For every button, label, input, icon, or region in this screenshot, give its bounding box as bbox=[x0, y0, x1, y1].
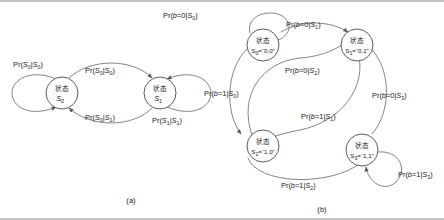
edge-b-s3-to-s1 bbox=[368, 46, 387, 134]
node-a-s0-cn-label: 状态 bbox=[55, 84, 69, 92]
node-b-s0-cn-label: 状态 bbox=[256, 36, 270, 44]
node-b-s0: 状态 S0=“0,0” bbox=[247, 29, 279, 61]
node-a-s0: 状态 S0 bbox=[46, 77, 78, 109]
state-transition-diagram: 状态 S0 状态 S1 Pr(S0|S0) Pr(S0|S0) Pr(S0|S1… bbox=[0, 0, 444, 220]
node-b-s1-circle bbox=[341, 29, 373, 61]
node-b-s0-circle bbox=[247, 29, 279, 61]
label-b-pr-b0-given-s3: Pr(b=0|S3) bbox=[372, 91, 407, 101]
label-a-pr-s0-given-s0: Pr(S0|S0) bbox=[13, 60, 43, 70]
node-b-s2-circle bbox=[247, 130, 279, 162]
node-b-s1-cn-label: 状态 bbox=[350, 36, 364, 44]
label-b-pr-b1-given-s1: Pr(b=1|S1) bbox=[301, 112, 336, 122]
label-a-pr-s1-given-s0: Pr(S0|S0) bbox=[85, 66, 115, 76]
label-b-pr-b0-given-s2: Pr(b=0|S2) bbox=[285, 66, 320, 76]
node-b-s3-circle bbox=[346, 134, 378, 166]
node-b-s2: 状态 S2=“1,0” bbox=[247, 130, 279, 162]
node-b-s3-cn-label: 状态 bbox=[355, 141, 369, 149]
node-b-s2-cn-label: 状态 bbox=[256, 137, 270, 145]
caption-panel-a: (a) bbox=[126, 196, 136, 205]
label-a-pr-s0-given-s1: Pr(S0|S1) bbox=[85, 113, 115, 123]
label-a-pr-s1-given-s1: Pr(S1|S1) bbox=[152, 116, 182, 126]
label-b-pr-b1-given-s3: Pr(b=1|S3) bbox=[398, 170, 433, 180]
node-a-s1: 状态 S1 bbox=[144, 77, 176, 109]
panel-b: 状态 S0=“0,0” 状态 S1=“0,1” 状态 S2=“1,0” 状态 S… bbox=[163, 11, 433, 214]
panel-a: 状态 S0 状态 S1 Pr(S0|S0) Pr(S0|S0) Pr(S0|S1… bbox=[12, 60, 211, 205]
node-b-s3: 状态 S3=“1,1” bbox=[346, 134, 378, 166]
caption-panel-b: (b) bbox=[317, 205, 327, 214]
label-b-pr-b0-given-s0: Pr(b=0|S0) bbox=[163, 11, 198, 21]
label-b-pr-b1-given-s2: Pr(b=1|S2) bbox=[281, 181, 316, 191]
node-b-s1: 状态 S1=“0,1” bbox=[341, 29, 373, 61]
label-b-pr-b1-given-s0: Pr(b=1|S0) bbox=[204, 89, 239, 99]
label-b-pr-b0-given-s1: Pr(b=0|S1) bbox=[286, 20, 321, 30]
figure-root: 状态 S0 状态 S1 Pr(S0|S0) Pr(S0|S0) Pr(S0|S1… bbox=[0, 0, 444, 220]
node-a-s1-cn-label: 状态 bbox=[153, 84, 167, 92]
